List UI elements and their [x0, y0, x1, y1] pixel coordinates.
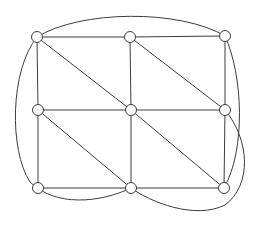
graph-vertex-bottom-center — [126, 183, 137, 194]
graph-vertex-center — [126, 105, 137, 116]
graph-edge-curved — [131, 110, 245, 211]
graph-edge-curved — [15, 37, 131, 200]
graph-vertex-top-center — [125, 32, 136, 43]
graph-edge-diagonal — [38, 110, 131, 188]
graph-edge-diagonal — [131, 110, 224, 188]
graph-edge-diagonal — [37, 37, 131, 110]
graph-edge-vertical — [224, 110, 225, 188]
graph-vertex-middle-right — [220, 105, 231, 116]
graph-vertex-top-right — [220, 31, 231, 42]
graph-figure — [0, 0, 261, 225]
graph-vertex-bottom-left — [33, 183, 44, 194]
graph-vertex-bottom-right — [219, 183, 230, 194]
graph-vertex-middle-left — [33, 105, 44, 116]
graph-edge-horizontal — [130, 36, 225, 37]
graph-canvas — [0, 0, 261, 225]
graph-edge-diagonal — [130, 37, 225, 110]
graph-vertex-top-left — [32, 32, 43, 43]
graph-edge-vertical — [37, 37, 38, 110]
graph-edge-vertical — [130, 37, 131, 110]
